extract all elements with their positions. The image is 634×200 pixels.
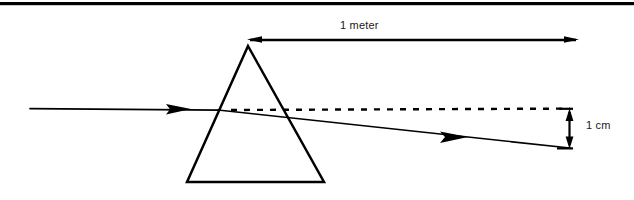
one-centimeter-label: 1 cm [586,119,611,132]
incident-light-ray [30,104,220,115]
one-meter-dimension [247,36,579,42]
figure-canvas [0,0,634,200]
one-centimeter-dimension [557,108,573,149]
incident-ray-line [30,109,220,111]
top-divider-rule [0,2,634,5]
one-meter-right-arrowhead [564,36,579,42]
refracted-ray-line [218,110,570,148]
one-cm-up-arrowhead [566,108,574,121]
refracted-light-ray [218,110,570,148]
prism-refraction-figure: 1 meter 1 cm [0,0,634,200]
one-meter-left-arrowhead [247,36,262,42]
refracted-ray-arrowhead [440,132,468,144]
one-meter-label: 1 meter [340,19,379,32]
